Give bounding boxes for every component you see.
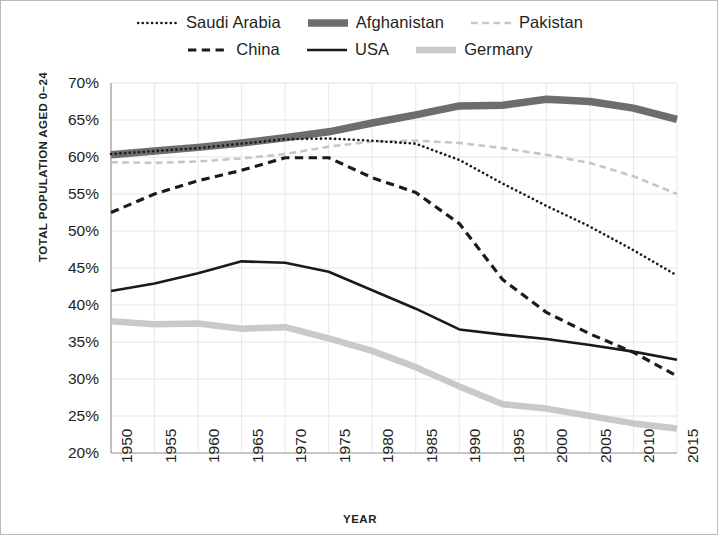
y-tick-label: 50% [53,222,99,240]
gridlines [111,83,677,453]
x-tick-label: 1960 [205,429,223,463]
x-tick-label: 2010 [640,429,658,463]
x-tick-label: 1990 [466,429,484,463]
x-tick-label: 1975 [336,429,354,463]
y-tick-label: 65% [53,111,99,129]
series-line-saudi-arabia [111,139,677,276]
y-tick-label: 70% [53,74,99,92]
y-tick-label: 55% [53,185,99,203]
chart-figure: Saudi ArabiaAfghanistanPakistanChinaUSAG… [0,0,718,535]
x-tick-label: 1970 [292,429,310,463]
plot-area: 70%65%60%55%50%45%40%35%30%25%20%1950195… [1,1,718,535]
x-tick-label: 1995 [510,429,528,463]
x-tick-label: 1965 [249,429,267,463]
series-line-afghanistan [111,99,677,155]
series-line-china [111,158,677,376]
x-tick-label: 1985 [423,429,441,463]
x-tick-label: 1955 [162,429,180,463]
y-tick-label: 40% [53,296,99,314]
x-tick-label: 1980 [379,429,397,463]
x-tick-label: 2015 [684,429,702,463]
y-tick-label: 20% [53,444,99,462]
y-tick-label: 45% [53,259,99,277]
y-tick-label: 25% [53,407,99,425]
x-tick-label: 2005 [597,429,615,463]
x-axis-title: YEAR [1,513,718,525]
y-axis-title: TOTAL POPULATION AGED 0–24 [37,37,49,297]
y-tick-label: 60% [53,148,99,166]
series-line-germany [111,321,677,428]
x-tick-label: 1950 [118,429,136,463]
x-tick-label: 2000 [553,429,571,463]
y-tick-label: 35% [53,333,99,351]
y-tick-label: 30% [53,370,99,388]
series-line-usa [111,261,677,359]
